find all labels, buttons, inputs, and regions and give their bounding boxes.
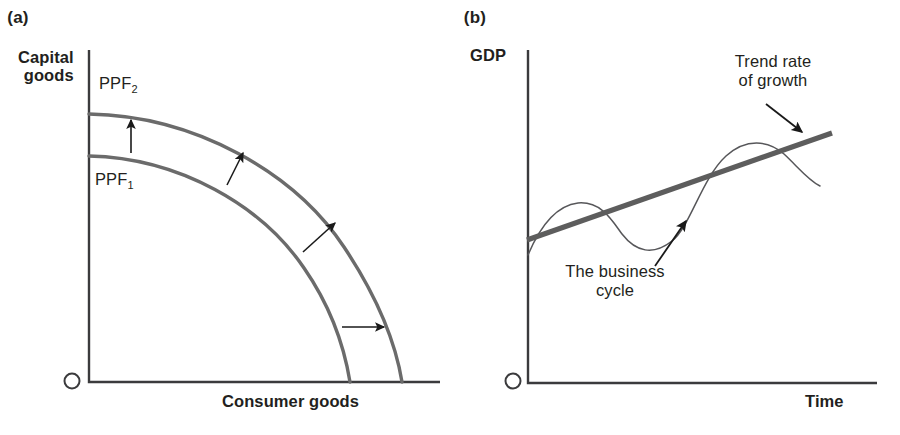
business-cycle-annotation-arrow	[655, 221, 686, 266]
panel-a-ppf-shift: (a) Capital goods Consumer goods PP	[0, 0, 450, 435]
trend-rate-of-growth-line	[527, 133, 832, 240]
shift-arrow-middle-diagonal	[303, 223, 335, 252]
ppf1-label-text: PPF	[95, 170, 127, 188]
shift-arrow-upper-diagonal	[227, 153, 243, 185]
ppf2-label-text: PPF	[99, 74, 131, 92]
panel-a-x-axis-label: Consumer goods	[222, 392, 359, 410]
trend-rate-of-growth-label: Trend rate of growth	[708, 52, 838, 91]
panel-b-axes	[528, 50, 877, 383]
panel-a-origin-circle-icon	[65, 374, 80, 389]
ppf1-label: PPF1	[95, 170, 134, 189]
panel-b-x-axis-label: Time	[805, 392, 844, 410]
panel-b-origin-circle-icon	[506, 374, 521, 389]
ppf2-label-subscript: 2	[131, 83, 137, 95]
panel-b-gdp-trend-cycle: (b) GDP Time Trend rate of growth The bu…	[450, 0, 900, 435]
trend-annotation-arrow	[766, 104, 802, 132]
ppf2-label: PPF2	[99, 74, 138, 93]
the-business-cycle-label: The business cycle	[545, 262, 685, 301]
panel-b-y-axis-label: GDP	[470, 46, 506, 64]
ppf1-label-subscript: 1	[127, 179, 133, 191]
panel-a-y-axis-label: Capital goods	[18, 48, 74, 85]
ppf2-curve	[89, 114, 402, 382]
economic-growth-figure: (a) Capital goods Consumer goods PP	[0, 0, 900, 435]
